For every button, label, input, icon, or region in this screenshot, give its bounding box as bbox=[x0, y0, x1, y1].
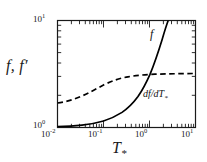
y-axis-title: f, f′ bbox=[6, 57, 28, 75]
x-axis-title-t: T bbox=[112, 139, 121, 156]
annotation-df-dt-subscript: * bbox=[164, 94, 168, 102]
x-tick-label-2: 100 bbox=[135, 129, 147, 139]
x-tick-0-exponent: -2 bbox=[50, 127, 55, 134]
y-tick-0-mantissa: 10 bbox=[33, 120, 42, 130]
x-tick-label-0: 10-2 bbox=[41, 129, 55, 139]
y-axis-ticks-left bbox=[58, 21, 65, 128]
x-tick-2-exponent: 0 bbox=[144, 127, 147, 134]
figure-container: f, f′ T* 10-2 10-1 100 101 101 100 f df/… bbox=[0, 0, 207, 162]
x-tick-label-1: 10-1 bbox=[88, 129, 102, 139]
annotation-df-dt-main: df/dT bbox=[143, 88, 164, 99]
y-tick-1-exponent: 1 bbox=[42, 12, 45, 19]
y-tick-0-exponent: 0 bbox=[42, 118, 45, 125]
x-tick-1-mantissa: 10 bbox=[88, 129, 97, 139]
y-tick-1-mantissa: 10 bbox=[33, 14, 42, 24]
y-tick-label-0: 100 bbox=[33, 120, 45, 130]
x-axis-title: T* bbox=[112, 139, 126, 159]
annotation-f: f bbox=[150, 27, 153, 42]
plot-frame bbox=[58, 21, 196, 128]
y-tick-label-1: 101 bbox=[33, 14, 45, 24]
y-axis-title-fprime: f′ bbox=[19, 57, 28, 74]
x-tick-1-exponent: -1 bbox=[97, 127, 102, 134]
x-tick-3-exponent: 1 bbox=[190, 127, 193, 134]
chart-plot-area bbox=[0, 0, 207, 162]
x-axis-ticks-bottom bbox=[58, 121, 196, 128]
x-tick-2-mantissa: 10 bbox=[135, 129, 144, 139]
x-tick-3-mantissa: 10 bbox=[181, 129, 190, 139]
annotation-df-dt: df/dT* bbox=[143, 88, 168, 99]
x-axis-title-subscript: * bbox=[121, 147, 127, 159]
x-axis-ticks-top bbox=[58, 21, 196, 28]
x-tick-label-3: 101 bbox=[181, 129, 193, 139]
series-df-dt-curve bbox=[58, 74, 196, 104]
x-tick-0-mantissa: 10 bbox=[41, 129, 50, 139]
